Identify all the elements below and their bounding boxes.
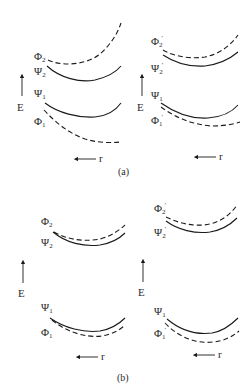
curve-psi1-solid xyxy=(50,318,125,331)
curve-psi1-solid xyxy=(167,318,238,333)
label-psi2: Ψ2 xyxy=(34,65,46,79)
energy-axis-label: E xyxy=(138,286,145,298)
curve-psi2-solid xyxy=(53,232,125,245)
panel-a: Φ2 Ψ2 E Ψ1 Φ1 r Φ2′ Ψ2′ E Ψ1 Φ1′ xyxy=(17,23,240,178)
energy-axis-label: E xyxy=(17,101,24,113)
curve-phi2-dashed xyxy=(54,225,125,240)
curve-phi2-dashed xyxy=(48,23,121,64)
label-psi1: Ψ1 xyxy=(154,305,166,319)
label-psi1: Ψ1 xyxy=(41,301,53,315)
radius-axis-label: r xyxy=(101,350,105,362)
label-phi2: Φ2 xyxy=(41,215,53,229)
curve-phi2prime-dashed xyxy=(166,205,237,225)
label-psi2prime: Ψ2′ xyxy=(154,225,167,240)
curve-phi1-dashed xyxy=(44,110,121,143)
label-phi1: Φ1 xyxy=(41,326,53,340)
label-phi1prime: Φ1′ xyxy=(151,113,164,128)
radius-axis-label: r xyxy=(218,348,222,360)
panel-b-left: Φ2 Ψ2 E Ψ1 Φ1 r xyxy=(18,215,125,362)
potential-energy-diagram: Φ2 Ψ2 E Ψ1 Φ1 r Φ2′ Ψ2′ E Ψ1 Φ1′ xyxy=(0,0,251,390)
caption-a: (a) xyxy=(118,166,129,178)
radius-axis-label: r xyxy=(99,152,103,164)
radius-axis-label: r xyxy=(219,150,223,162)
curve-psi1-solid xyxy=(45,103,121,117)
curve-psi2-solid xyxy=(47,66,121,81)
label-phi2prime: Φ2′ xyxy=(154,201,167,216)
label-psi1: Ψ1 xyxy=(34,87,46,101)
label-phi2prime: Φ2′ xyxy=(151,34,164,49)
energy-axis-label: E xyxy=(137,101,144,113)
label-psi2prime: Ψ2′ xyxy=(151,61,164,76)
panel-b-right: Φ2′ Ψ2′ E Ψ1 Φ1′ r xyxy=(138,201,239,360)
curve-phi1-dashed xyxy=(52,320,125,336)
curve-psi1-solid xyxy=(161,103,238,118)
label-psi2: Ψ2 xyxy=(41,236,53,250)
label-phi2: Φ2 xyxy=(34,50,46,64)
panel-b: Φ2 Ψ2 E Ψ1 Φ1 r Φ2′ Ψ2′ E Ψ1 Φ1′ xyxy=(18,201,239,384)
label-phi1: Φ1 xyxy=(34,115,46,129)
panel-a-right: Φ2′ Ψ2′ E Ψ1 Φ1′ r xyxy=(137,34,240,162)
energy-axis-label: E xyxy=(18,287,25,299)
label-phi1prime: Φ1′ xyxy=(154,326,167,341)
curve-psi2prime-solid xyxy=(163,52,238,66)
panel-a-left: Φ2 Ψ2 E Ψ1 Φ1 r xyxy=(17,23,121,164)
label-psi1: Ψ1 xyxy=(151,89,163,103)
curve-phi2prime-dashed xyxy=(163,35,238,58)
caption-b: (b) xyxy=(117,372,129,384)
